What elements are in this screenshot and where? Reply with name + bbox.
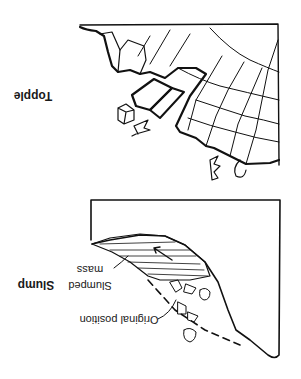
rock-joint-grid [138,28,279,164]
slump-frame [91,200,280,358]
fallen-block-2 [150,88,184,118]
original-tree-icon [184,328,196,342]
slope-failure-diagram: Topple Slump Slumped mass Original posit… [0,0,301,379]
diagram-svg: Topple Slump Slumped mass Original posit… [0,0,301,379]
original-position-leader [158,300,176,319]
topple-label: Topple [13,89,52,103]
topple-frame [80,24,279,165]
slumped-mass-leader [114,256,128,268]
cliff-block-lines [120,40,146,74]
movement-arrow-icon [154,247,172,260]
slumped-label-line1: Slumped [68,280,111,292]
slumped-label-line2: mass [76,264,103,276]
slump-panel [91,200,280,358]
topple-panel [80,24,279,180]
slump-label: Slump [18,278,55,292]
cliff-block-lines-2 [100,32,120,72]
slumped-mass [92,234,210,280]
original-position-label: Original position [80,314,159,326]
base-trees-icon [210,156,246,180]
tree-icon [132,120,150,136]
house-icon [118,104,134,124]
original-slope-dashed-line [148,280,240,345]
slumped-tree-icon [200,288,211,300]
original-house-icon [178,302,198,322]
slumped-house-icon [170,280,196,294]
slump-hatching [100,242,208,276]
